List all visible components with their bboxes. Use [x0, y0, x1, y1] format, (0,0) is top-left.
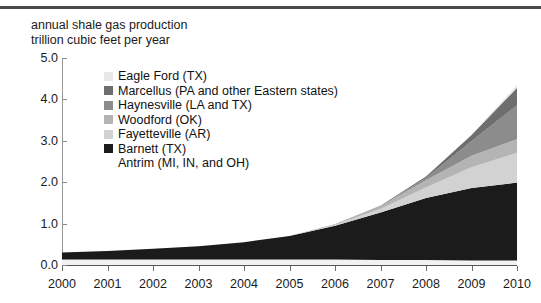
legend-item-label: Woodford (OK)	[118, 113, 202, 127]
x-axis-tick-mark	[472, 266, 473, 271]
y-axis-tick-label: 0.0	[24, 258, 58, 272]
x-axis-tick-label: 2008	[403, 277, 449, 291]
x-axis-tick-mark	[199, 266, 200, 271]
y-axis-tick-mark	[62, 182, 67, 183]
legend-item-label: Eagle Ford (TX)	[118, 69, 207, 83]
legend-item[interactable]: Barnett (TX)	[104, 142, 338, 157]
legend-swatch-icon	[104, 159, 113, 168]
y-axis-tick-mark	[62, 99, 67, 100]
x-axis-tick-mark	[62, 266, 63, 271]
y-axis-labels: 0.01.02.03.04.05.0	[0, 0, 58, 303]
x-axis-tick-mark	[426, 266, 427, 271]
legend-item-label: Marcellus (PA and other Eastern states)	[118, 84, 338, 98]
legend-swatch-icon	[104, 130, 113, 139]
x-axis-tick-mark	[153, 266, 154, 271]
area-series	[62, 183, 517, 261]
legend-item[interactable]: Haynesville (LA and TX)	[104, 98, 338, 113]
legend-item[interactable]: Eagle Ford (TX)	[104, 69, 338, 84]
chart-figure: annual shale gas production trillion cub…	[0, 0, 541, 303]
chart-legend: Eagle Ford (TX)Marcellus (PA and other E…	[104, 69, 338, 171]
x-axis-tick-label: 2006	[312, 277, 358, 291]
x-axis-tick-label: 2005	[267, 277, 313, 291]
legend-item-label: Haynesville (LA and TX)	[118, 98, 252, 112]
legend-item[interactable]: Woodford (OK)	[104, 113, 338, 128]
x-axis-tick-label: 2000	[39, 277, 85, 291]
y-axis-tick-mark	[62, 265, 67, 266]
legend-item[interactable]: Antrim (MI, IN, and OH)	[104, 156, 338, 171]
x-axis-tick-mark	[381, 266, 382, 271]
legend-swatch-icon	[104, 144, 113, 153]
y-axis-tick-label: 5.0	[24, 51, 58, 65]
x-axis-tick-label: 2009	[449, 277, 495, 291]
legend-item[interactable]: Fayetteville (AR)	[104, 127, 338, 142]
legend-swatch-icon	[104, 115, 113, 124]
y-axis-tick-mark	[62, 58, 67, 59]
y-axis-tick-label: 3.0	[24, 134, 58, 148]
y-axis-tick-label: 2.0	[24, 175, 58, 189]
x-axis-tick-mark	[290, 266, 291, 271]
y-axis-tick-label: 4.0	[24, 92, 58, 106]
x-axis-tick-mark	[517, 266, 518, 271]
x-axis-tick-label: 2003	[176, 277, 222, 291]
x-axis-tick-mark	[108, 266, 109, 271]
y-axis-tick-mark	[62, 224, 67, 225]
y-axis-tick-label: 1.0	[24, 217, 58, 231]
area-series	[62, 260, 517, 265]
legend-swatch-icon	[104, 86, 113, 95]
legend-item[interactable]: Marcellus (PA and other Eastern states)	[104, 84, 338, 99]
legend-swatch-icon	[104, 101, 113, 110]
x-axis-tick-mark	[335, 266, 336, 271]
y-axis-tick-mark	[62, 141, 67, 142]
x-axis-tick-label: 2004	[221, 277, 267, 291]
legend-swatch-icon	[104, 72, 113, 81]
legend-item-label: Antrim (MI, IN, and OH)	[118, 156, 249, 170]
x-axis-tick-mark	[244, 266, 245, 271]
x-axis-tick-label: 2001	[85, 277, 131, 291]
top-divider	[0, 6, 541, 9]
legend-item-label: Fayetteville (AR)	[118, 127, 210, 141]
x-axis-tick-label: 2010	[494, 277, 540, 291]
x-axis-tick-label: 2007	[358, 277, 404, 291]
x-axis-tick-label: 2002	[130, 277, 176, 291]
legend-item-label: Barnett (TX)	[118, 142, 186, 156]
